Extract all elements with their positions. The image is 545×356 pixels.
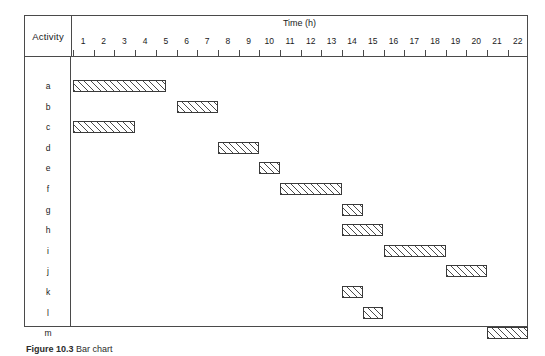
time-tick-label-9: 9 [246,36,251,46]
chart-body: abcdefghijklm [25,57,527,326]
gantt-bar-a [73,80,166,92]
activity-row-label-d: d [25,143,71,153]
time-tick-label-1: 1 [81,36,86,46]
gantt-bar-c [73,121,135,133]
activity-row-label-h: h [25,225,71,235]
chart-header-band: Activity Time (h) 1234567891011121314151… [25,16,527,57]
time-tick-label-20: 20 [472,36,481,46]
gantt-bar-l [363,307,384,319]
time-tick-label-12: 12 [306,36,315,46]
time-tick-label-8: 8 [226,36,231,46]
activity-row-label-j: j [25,266,71,276]
activity-row-label-e: e [25,163,71,173]
gantt-bar-g [342,204,363,216]
activity-row-label-g: g [25,205,71,215]
activity-row-label-c: c [25,122,71,132]
gantt-bar-m [487,327,528,339]
time-tick-label-18: 18 [430,36,439,46]
time-tick-mark-5 [156,50,157,56]
gantt-bar-f [280,183,342,195]
time-tick-mark-2 [94,50,95,56]
gantt-bar-d [218,142,259,154]
activity-header-label: Activity [32,31,64,42]
activity-row-label-l: l [25,308,71,318]
time-tick-mark-22 [508,50,509,56]
time-tick-mark-7 [197,50,198,56]
time-tick-mark-6 [177,50,178,56]
activity-row-label-b: b [25,102,71,112]
time-tick-mark-3 [114,50,115,56]
time-tick-mark-10 [259,50,260,56]
gantt-plot-area [71,57,527,326]
time-tick-label-22: 22 [513,36,522,46]
time-tick-label-15: 15 [368,36,377,46]
activity-row-label-a: a [25,81,71,91]
activity-row-label-m: m [25,328,71,338]
time-tick-mark-19 [446,50,447,56]
activity-label-column: abcdefghijklm [25,57,71,326]
activity-column-header: Activity [25,16,71,56]
time-tick-mark-11 [280,50,281,56]
time-tick-label-14: 14 [347,36,356,46]
time-tick-mark-1 [73,50,74,56]
gantt-chart-frame: Activity Time (h) 1234567891011121314151… [24,15,528,327]
time-tick-label-17: 17 [409,36,418,46]
time-tick-mark-4 [135,50,136,56]
time-tick-mark-8 [218,50,219,56]
figure-caption-text: Bar chart [76,344,113,354]
time-tick-label-7: 7 [205,36,210,46]
gantt-bar-e [259,162,280,174]
figure-number: Figure 10.3 [26,344,74,354]
time-axis-header: Time (h) 1234567891011121314151617181920… [71,16,527,56]
time-tick-label-11: 11 [286,36,295,46]
time-tick-mark-12 [301,50,302,56]
time-tick-mark-9 [239,50,240,56]
time-tick-mark-21 [487,50,488,56]
time-tick-label-2: 2 [101,36,106,46]
time-tick-label-5: 5 [163,36,168,46]
time-tick-mark-16 [384,50,385,56]
time-tick-label-3: 3 [122,36,127,46]
activity-row-label-k: k [25,287,71,297]
gantt-bar-j [446,265,487,277]
activity-row-label-f: f [25,184,71,194]
time-tick-mark-14 [342,50,343,56]
gantt-bar-k [342,286,363,298]
time-tick-label-19: 19 [451,36,460,46]
time-tick-label-10: 10 [265,36,274,46]
time-tick-mark-17 [404,50,405,56]
time-tick-mark-13 [321,50,322,56]
time-tick-label-16: 16 [389,36,398,46]
activity-row-label-i: i [25,246,71,256]
gantt-bar-b [177,101,218,113]
time-tick-label-21: 21 [492,36,501,46]
time-tick-mark-20 [466,50,467,56]
gantt-bar-i [384,245,446,257]
time-tick-label-6: 6 [184,36,189,46]
time-tick-mark-18 [425,50,426,56]
gantt-bar-h [342,224,383,236]
figure-caption: Figure 10.3 Bar chart [26,344,113,354]
time-axis-title: Time (h) [72,18,527,28]
time-tick-label-13: 13 [327,36,336,46]
time-tick-mark-15 [363,50,364,56]
time-tick-label-4: 4 [143,36,148,46]
